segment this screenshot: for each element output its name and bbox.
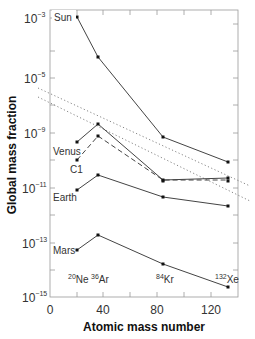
- isotope-ne: 20Ne: [68, 273, 89, 285]
- svg-text:10−9: 10−9: [24, 126, 45, 141]
- svg-text:10−15: 10−15: [22, 290, 47, 305]
- x-axis: [77, 10, 211, 297]
- label-venus: Venus: [53, 146, 81, 157]
- svg-text:40: 40: [96, 303, 110, 317]
- label-mars: Mars: [53, 245, 75, 256]
- reference-lines: [38, 88, 250, 201]
- chart: 10−3 10−5 10−9 10−11 10−13 10−15 0 40 80…: [0, 0, 255, 339]
- svg-text:10−3: 10−3: [24, 11, 45, 26]
- isotope-ar: 36Ar: [91, 273, 109, 285]
- svg-text:10−13: 10−13: [22, 236, 47, 251]
- data-markers: [76, 16, 230, 289]
- svg-text:10−11: 10−11: [22, 181, 47, 196]
- label-sun: Sun: [54, 12, 72, 23]
- isotope-kr: 84Kr: [156, 273, 174, 285]
- y-axis: [50, 18, 238, 270]
- svg-text:10−5: 10−5: [24, 71, 45, 86]
- svg-text:80: 80: [150, 303, 164, 317]
- x-tick-labels: 0 40 80 120: [47, 303, 222, 317]
- y-tick-labels: 10−3 10−5 10−9 10−11 10−13 10−15: [22, 11, 47, 305]
- label-c1: C1: [70, 164, 83, 175]
- series-labels: Sun Venus C1 Earth Mars: [52, 10, 83, 256]
- isotope-labels: 20Ne 36Ar 84Kr 132Xe: [68, 273, 239, 285]
- x-axis-title: Atomic mass number: [83, 320, 205, 334]
- series-c1: [77, 136, 228, 180]
- label-earth: Earth: [53, 192, 77, 203]
- series-venus: [77, 124, 228, 180]
- series-sun: [77, 17, 228, 162]
- svg-text:120: 120: [201, 303, 221, 317]
- svg-text:0: 0: [47, 303, 54, 317]
- y-axis-title: Global mass fraction: [5, 96, 19, 215]
